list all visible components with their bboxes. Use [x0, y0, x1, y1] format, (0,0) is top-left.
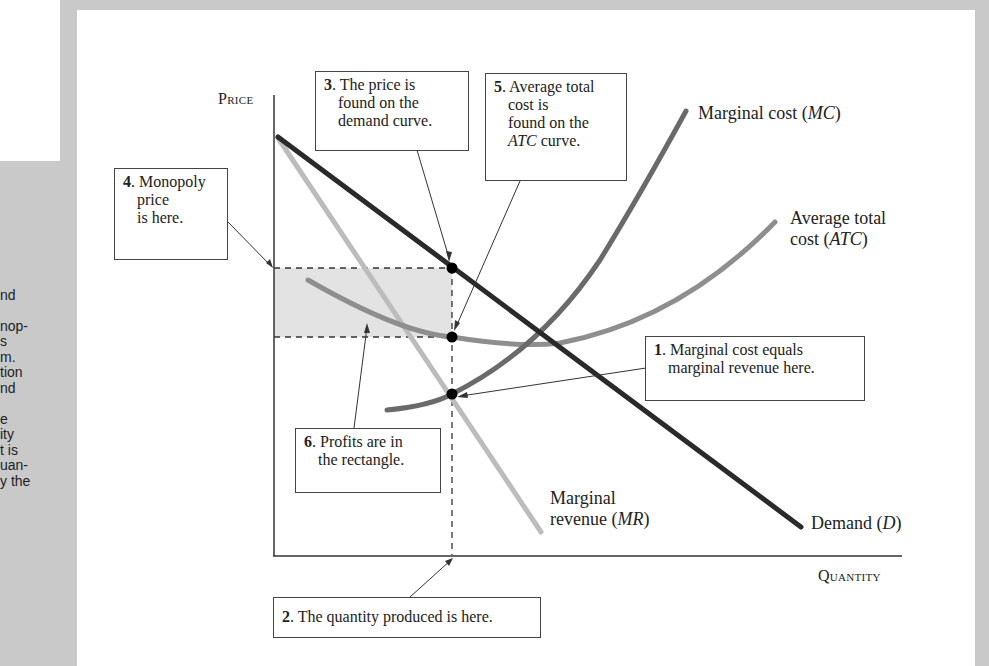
mc-curve-label: Marginal cost (MC): [698, 103, 841, 124]
leader-line-4: [228, 222, 271, 266]
price-point: [447, 263, 458, 274]
y-axis-label: Price: [218, 90, 253, 108]
profit-rectangle: [274, 268, 452, 337]
arrowhead-4: [266, 259, 273, 268]
mr-curve-label: Marginal revenue (MR): [550, 488, 649, 530]
annotation-3-price-on-demand: 3. The price is found on the demand curv…: [315, 71, 469, 151]
annotation-5-atc: 5. Average total cost is found on the AT…: [485, 73, 627, 181]
annotation-2-quantity-produced: 2. The quantity produced is here.: [273, 597, 541, 638]
atc-curve-label: Average total cost (ATC): [790, 208, 886, 250]
annotation-6-profits: 6. Profits are in the rectangle.: [295, 428, 441, 493]
leader-line-2: [410, 560, 451, 597]
annotation-1-mc-equals-mr: 1. Marginal cost equals marginal revenue…: [645, 336, 865, 401]
x-axis-label: Quantity: [818, 567, 881, 585]
atc-point: [447, 332, 458, 343]
arrowhead-5: [454, 320, 460, 331]
annotation-4-monopoly-price: 4. Monopoly price is here.: [114, 168, 228, 260]
mc-mr-intersection-point: [447, 389, 458, 400]
leader-line-5: [456, 181, 520, 327]
leader-line-6: [354, 327, 367, 428]
demand-curve-label: Demand (D): [811, 513, 901, 534]
